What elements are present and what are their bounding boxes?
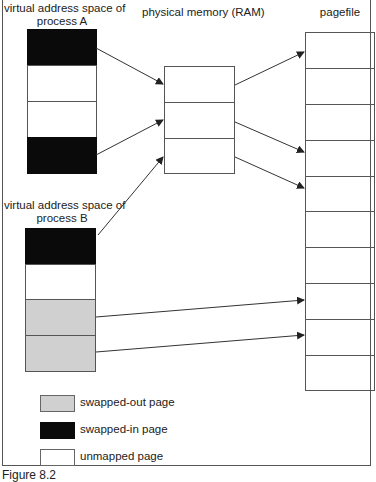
process-a-title: virtual address space of process A (4, 2, 120, 28)
pagefile-slot (305, 140, 375, 177)
process-b-title-line2: process B (4, 212, 120, 225)
process-b-address-space (25, 228, 96, 372)
pagefile-slot (305, 319, 375, 356)
ram-frame (164, 66, 235, 103)
legend-label: swapped-in page (80, 423, 168, 435)
ram-frame (164, 138, 235, 174)
pagefile-slot (305, 211, 375, 248)
pagefile (305, 32, 375, 391)
figure-caption: Figure 8.2 (2, 468, 56, 482)
process-b-title-line1: virtual address space of (4, 199, 120, 212)
process-b-page-unmapped (25, 264, 96, 300)
swatch-unmapped (40, 449, 75, 466)
process-a-address-space (27, 29, 97, 174)
process-a-title-line1: virtual address space of (4, 2, 120, 15)
swatch-swapped-out (40, 395, 75, 412)
process-b-page-swapped-out (25, 335, 96, 372)
process-a-page-swapped-in (27, 29, 97, 66)
swatch-swapped-in (40, 422, 75, 439)
process-a-page-swapped-in (27, 137, 97, 174)
pagefile-title: pagefile (310, 6, 370, 19)
process-a-page-unmapped (27, 65, 97, 102)
process-b-page-swapped-in (25, 228, 96, 265)
pagefile-slot (305, 68, 375, 105)
pagefile-slot (305, 104, 375, 141)
process-b-page-swapped-out (25, 299, 96, 336)
ram-frame (164, 102, 235, 139)
pagefile-slot (305, 283, 375, 320)
pagefile-slot (305, 355, 375, 391)
process-b-title: virtual address space of process B (4, 199, 120, 225)
legend-label: swapped-out page (80, 396, 175, 408)
ram-title: physical memory (RAM) (142, 6, 258, 19)
pagefile-slot (305, 32, 375, 69)
process-a-page-unmapped (27, 101, 97, 138)
pagefile-slot (305, 247, 375, 284)
legend-label: unmapped page (80, 450, 163, 462)
physical-memory (164, 66, 235, 174)
pagefile-slot (305, 176, 375, 212)
process-a-title-line2: process A (4, 15, 120, 28)
